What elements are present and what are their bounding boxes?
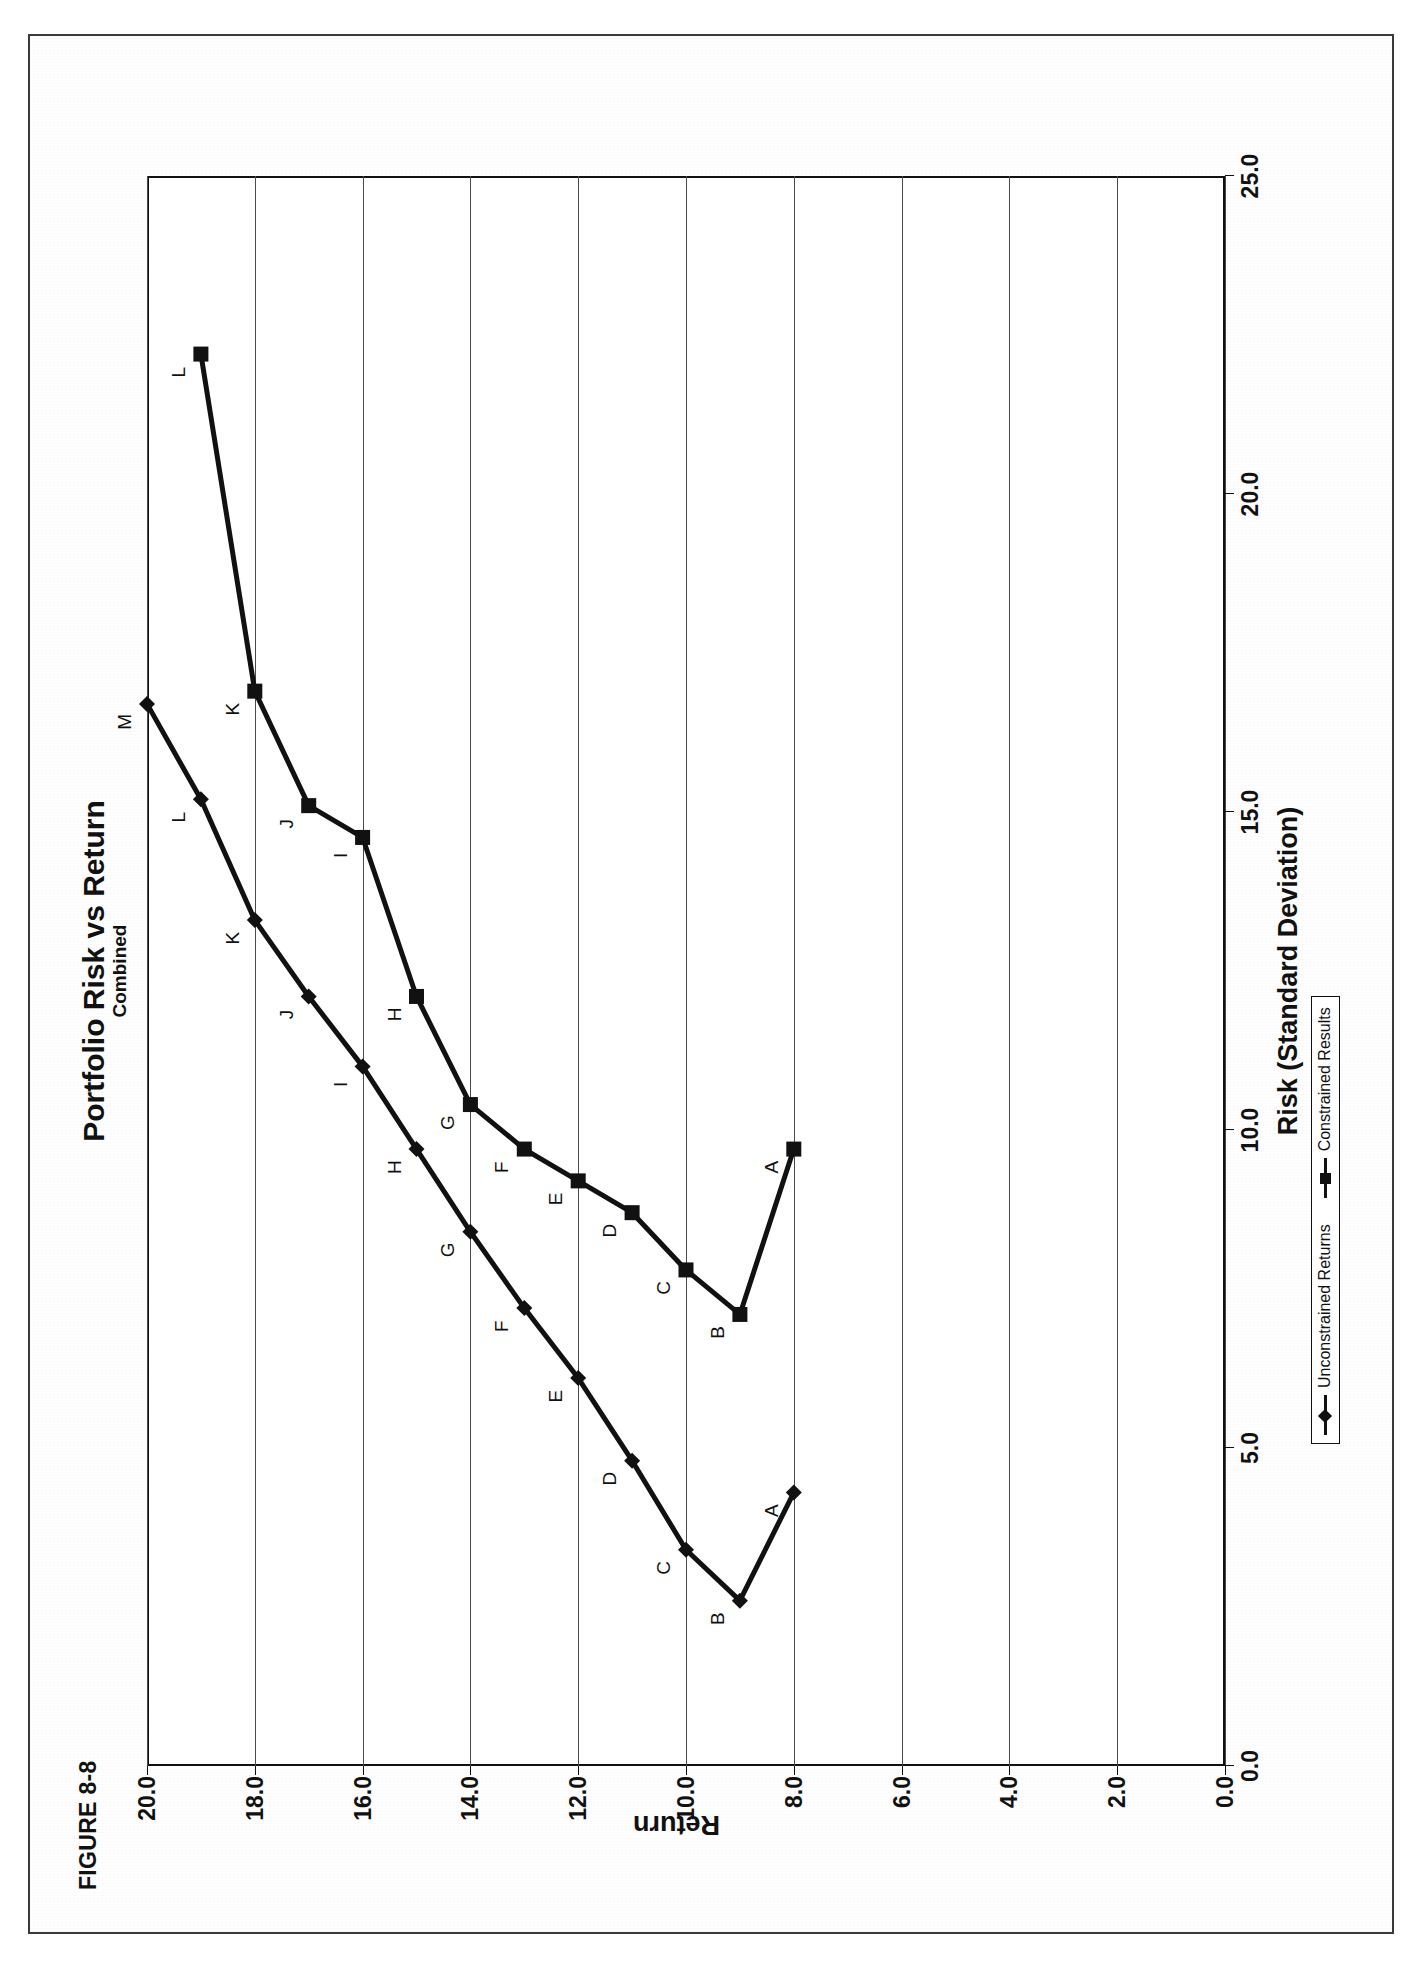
x-tick-mark [1225,811,1234,812]
x-tick-mark [1225,175,1234,176]
point-label: D [599,1472,621,1486]
x-tick-label: 20.0 [1237,472,1264,517]
chart-legend: Unconstrained ReturnsConstrained Results [1311,996,1340,1444]
point-label: H [384,1160,406,1174]
point-label: E [545,1390,567,1403]
point-label: A [761,1161,783,1174]
point-label: E [545,1193,567,1206]
legend-label: Unconstrained Returns [1316,1224,1334,1388]
y-tick-mark [794,1766,795,1775]
gridline [1009,176,1010,1766]
point-label: F [491,1161,513,1173]
y-tick-mark [1225,1766,1226,1775]
gridline [255,176,256,1766]
chart-title: Portfolio Risk vs Return [79,176,110,1766]
y-tick-label: 16.0 [349,1776,376,1821]
y-tick-mark [578,1766,579,1775]
legend-diamond-icon [1319,1395,1331,1435]
x-tick-label: 0.0 [1237,1750,1264,1782]
point-label: M [114,714,136,730]
point-label: G [437,1115,459,1130]
figure-caption: FIGURE 8-8 [75,1760,102,1890]
point-label: K [222,932,244,945]
point-label: L [168,367,190,378]
x-tick-label: 5.0 [1237,1432,1264,1464]
x-tick-label: 10.0 [1237,1108,1264,1153]
point-label: I [330,853,352,858]
y-tick-label: 6.0 [888,1776,915,1808]
x-axis-title: Risk (Standard Deviation) [1273,176,1304,1766]
x-tick-label: 15.0 [1237,790,1264,835]
point-label: K [222,703,244,716]
point-label: F [491,1320,513,1332]
point-label: B [707,1612,729,1625]
point-label: J [276,819,298,829]
x-tick-mark [1225,493,1234,494]
point-label: B [707,1326,729,1339]
gridline [794,176,795,1766]
x-tick-mark [1225,1447,1234,1448]
point-label: A [761,1504,783,1517]
y-tick-mark [686,1766,687,1775]
y-tick-mark [902,1766,903,1775]
point-label: L [168,812,190,823]
gridline [1225,176,1226,1766]
point-label: J [276,1010,298,1020]
y-tick-mark [363,1766,364,1775]
legend-label: Constrained Results [1316,1007,1334,1151]
gridline [902,176,903,1766]
y-tick-label: 4.0 [996,1776,1023,1808]
legend-entry[interactable]: Unconstrained Returns [1316,1224,1334,1435]
point-label: H [384,1008,406,1022]
y-tick-mark [147,1766,148,1775]
gridline [578,176,579,1766]
y-tick-label: 20.0 [134,1776,161,1821]
scanned-page-border: FIGURE 8-8 Portfolio Risk vs Return Comb… [28,34,1394,1934]
point-label: C [653,1281,675,1295]
chart-subtitle: Combined [109,176,131,1766]
point-label: I [330,1082,352,1087]
y-tick-label: 18.0 [241,1776,268,1821]
y-tick-label: 2.0 [1104,1776,1131,1808]
y-tick-mark [1117,1766,1118,1775]
point-label: G [437,1242,459,1257]
legend-entry[interactable]: Constrained Results [1316,1007,1334,1198]
y-tick-label: 8.0 [780,1776,807,1808]
y-tick-label: 0.0 [1212,1776,1239,1808]
gridline [1117,176,1118,1766]
point-label: D [599,1224,621,1238]
x-tick-mark [1225,1765,1234,1766]
point-label: C [653,1561,675,1575]
gridline [686,176,687,1766]
x-tick-label: 25.0 [1237,154,1264,199]
y-tick-mark [255,1766,256,1775]
y-tick-label: 14.0 [457,1776,484,1821]
y-axis-title: Return [577,1809,777,1840]
y-tick-mark [470,1766,471,1775]
gridline [363,176,364,1766]
gridline [470,176,471,1766]
legend-square-icon [1319,1158,1331,1198]
x-tick-mark [1225,1129,1234,1130]
rotated-figure-stage: FIGURE 8-8 Portfolio Risk vs Return Comb… [61,64,1361,1904]
gridline [147,176,148,1766]
y-tick-mark [1009,1766,1010,1775]
